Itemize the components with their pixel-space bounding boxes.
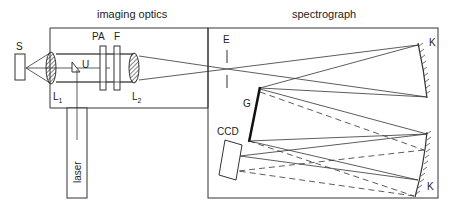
- filter: [114, 46, 120, 90]
- lens-l2-label: L2: [132, 91, 142, 104]
- ccd-label: CCD: [217, 126, 239, 137]
- slit-label: E: [223, 34, 230, 45]
- filter-label: F: [114, 31, 120, 42]
- lens-l1: [46, 52, 56, 84]
- mirror-top-label: K: [429, 37, 436, 48]
- source-rays: [26, 53, 110, 83]
- diffracted-rays-dashed: [238, 92, 424, 196]
- lens-l2: [129, 53, 139, 83]
- raman-setup-diagram: imaging optics spectrograph S L1 U laser…: [0, 0, 453, 212]
- grating-label: G: [243, 98, 251, 109]
- polarization-analyzer: [100, 46, 106, 90]
- spectrograph-title: spectrograph: [292, 8, 356, 20]
- diffracted-rays-solid: [240, 89, 427, 180]
- source-label: S: [16, 41, 23, 52]
- pa-label: PA: [92, 31, 105, 42]
- prism-label: U: [82, 59, 89, 70]
- grating: [249, 87, 260, 142]
- mirror-top: [418, 43, 430, 98]
- lens-l1-label: L1: [53, 91, 63, 104]
- collimator-rays: [260, 45, 427, 97]
- mirror-bottom-label: K: [427, 181, 434, 192]
- spectrograph-box: [208, 28, 438, 198]
- ccd-detector: [219, 140, 242, 180]
- prism-u: [72, 62, 80, 72]
- source-block: [15, 54, 25, 80]
- imaging-optics-title: imaging optics: [97, 8, 168, 20]
- laser-label: laser: [72, 161, 83, 183]
